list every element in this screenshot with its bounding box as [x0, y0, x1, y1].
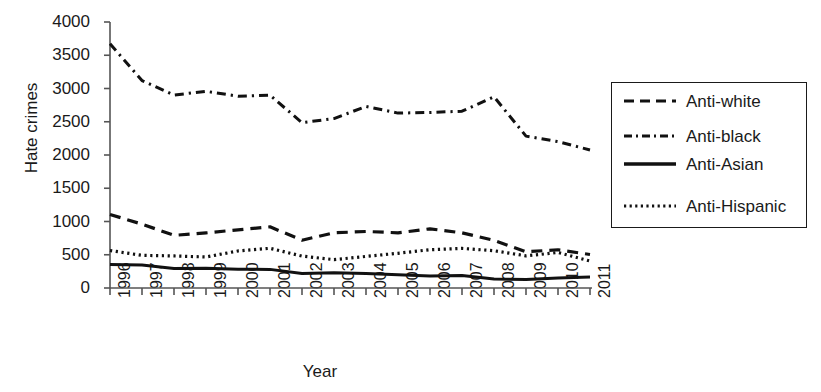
series-line-anti-asian [110, 264, 590, 279]
legend-swatch-solid [623, 157, 677, 171]
legend-label-anti-black: Anti-black [686, 128, 761, 145]
legend-label-anti-white: Anti-white [686, 93, 761, 110]
legend-swatch-dashdot [623, 129, 677, 143]
series-line-anti-black [110, 44, 590, 150]
legend-swatch-dashed [623, 94, 677, 108]
legend-label-anti-asian: Anti-Asian [686, 156, 763, 173]
series-line-anti-white [110, 214, 590, 254]
legend: Anti-white Anti-black Anti-Asian Anti-Hi… [611, 82, 807, 228]
legend-item-anti-black[interactable]: Anti-black [623, 126, 761, 146]
legend-item-anti-white[interactable]: Anti-white [623, 91, 761, 111]
legend-item-anti-hispanic[interactable]: Anti-Hispanic [623, 196, 786, 216]
legend-swatch-dotted [623, 199, 677, 213]
legend-label-anti-hispanic: Anti-Hispanic [686, 198, 786, 215]
legend-item-anti-asian[interactable]: Anti-Asian [623, 154, 763, 174]
hate-crimes-line-chart: Hate crimes Year 05001000150020002500300… [0, 0, 821, 392]
series-lines [110, 44, 590, 280]
